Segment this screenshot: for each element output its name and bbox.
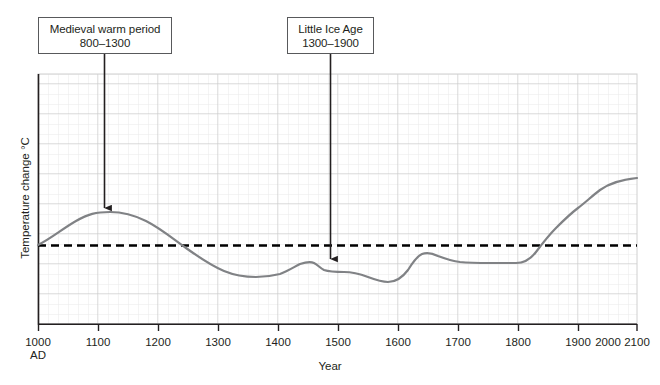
annotation-littleice-range: 1300–1900 xyxy=(288,36,373,50)
annotation-littleice-title: Little Ice Age xyxy=(288,22,373,36)
plot-gridlines xyxy=(38,74,637,324)
annotation-medieval-title: Medieval warm period xyxy=(39,22,171,36)
annotation-box-little-ice-age: Little Ice Age 1300–1900 xyxy=(287,17,374,54)
annotation-medieval-range: 800–1300 xyxy=(39,36,171,50)
temperature-change-chart: Medieval warm period 800–1300 Little Ice… xyxy=(0,0,660,385)
annotation-box-medieval-warm-period: Medieval warm period 800–1300 xyxy=(38,17,172,54)
plot-svg xyxy=(0,0,660,385)
